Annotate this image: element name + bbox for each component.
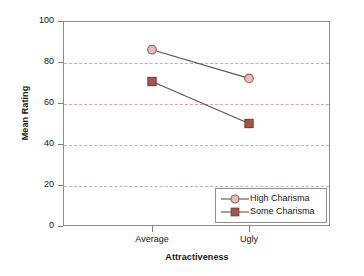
y-tick-label-100: 100	[10, 16, 54, 25]
y-tick-mark-100	[58, 21, 63, 22]
legend[interactable]: High Charisma Some Charisma	[215, 188, 327, 223]
gridline-60	[64, 104, 329, 105]
y-tick-label-80: 80	[10, 57, 54, 66]
legend-label-high-charisma: High Charisma	[250, 194, 310, 203]
gridline-40	[64, 145, 329, 146]
x-tick-mark-average	[152, 226, 153, 232]
y-tick-mark-20	[58, 185, 63, 186]
y-tick-mark-0	[58, 226, 63, 227]
y-tick-mark-60	[58, 103, 63, 104]
gridline-20	[64, 186, 329, 187]
y-tick-mark-40	[58, 144, 63, 145]
gridline-80	[64, 63, 329, 64]
legend-item-high-charisma[interactable]: High Charisma	[220, 192, 322, 205]
x-tick-label-ugly: Ugly	[209, 235, 289, 244]
legend-key-circle-icon	[220, 193, 250, 205]
legend-label-some-charisma: Some Charisma	[250, 207, 315, 216]
interaction-plot: Mean Rating 100 80 60 40 20 0 Average Ug…	[0, 0, 364, 276]
y-axis-title-text: Mean Rating	[20, 86, 30, 141]
y-tick-mark-80	[58, 62, 63, 63]
legend-item-some-charisma[interactable]: Some Charisma	[220, 205, 322, 218]
legend-key-square-icon	[220, 206, 250, 218]
x-tick-mark-ugly	[249, 226, 250, 232]
y-tick-label-60: 60	[10, 98, 54, 107]
x-axis-title: Attractiveness	[63, 252, 331, 262]
y-tick-label-20: 20	[10, 180, 54, 189]
x-tick-label-average: Average	[112, 235, 192, 244]
y-tick-label-0: 0	[10, 221, 54, 230]
y-tick-label-40: 40	[10, 139, 54, 148]
y-axis-title: Mean Rating	[14, 0, 36, 226]
